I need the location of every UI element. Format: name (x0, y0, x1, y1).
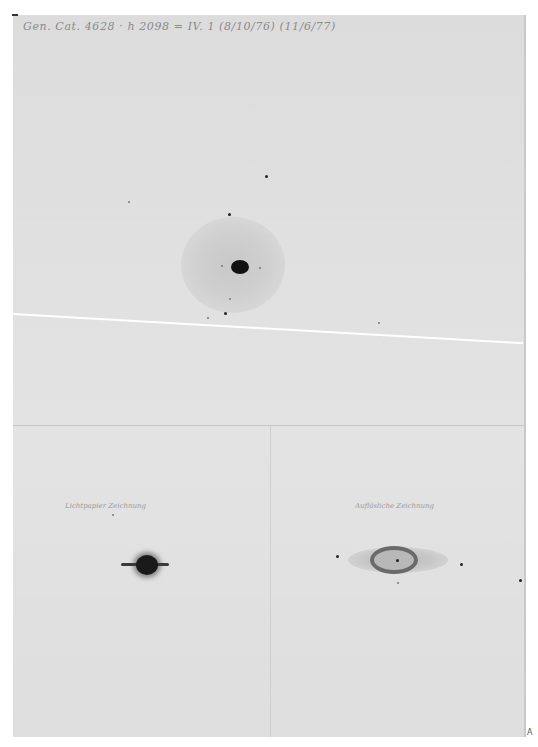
paper-sheet: Gen. Cat. 4628 · h 2098 = IV. 1 (8/10/76… (13, 15, 526, 737)
star (112, 514, 114, 516)
star (519, 579, 522, 582)
left-figure-disk (136, 555, 158, 575)
nebula-nucleus (231, 260, 249, 274)
horizontal-divider (13, 425, 524, 426)
star (224, 312, 227, 315)
plate-crack-line (13, 313, 523, 344)
star (460, 563, 463, 566)
corner-mark: A (527, 728, 532, 737)
figure-right-label: Auflösliche Zeichnung (355, 502, 434, 510)
central-star (396, 559, 399, 562)
star (378, 322, 380, 324)
vertical-divider (270, 425, 271, 737)
star (397, 582, 399, 584)
star (207, 317, 209, 319)
star (221, 265, 223, 267)
star (229, 298, 231, 300)
star (336, 555, 339, 558)
star (128, 201, 130, 203)
star (228, 213, 231, 216)
star (265, 175, 268, 178)
catalog-header-note: Gen. Cat. 4628 · h 2098 = IV. 1 (8/10/76… (23, 20, 336, 33)
star (259, 267, 261, 269)
right-figure-ring (370, 546, 418, 574)
figure-left-label: Lichtpapier Zeichnung (65, 502, 146, 510)
